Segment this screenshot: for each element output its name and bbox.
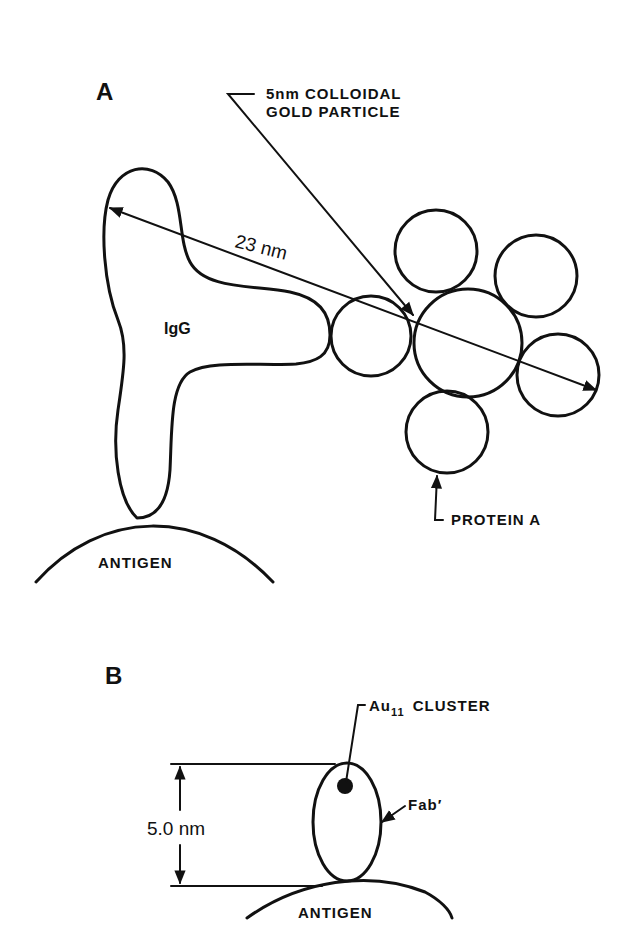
igg-antibody-shape bbox=[104, 169, 330, 518]
au11-label-main: Au bbox=[369, 697, 391, 714]
antigen-label-a: ANTIGEN bbox=[98, 554, 173, 571]
protein-a-top bbox=[395, 210, 477, 292]
fab-leader bbox=[382, 806, 405, 822]
au11-label-rest: CLUSTER bbox=[413, 697, 491, 714]
fab-label: Fab′ bbox=[408, 796, 442, 813]
gold-callout-leader bbox=[228, 94, 413, 315]
protein-a-callout: PROTEIN A bbox=[435, 476, 541, 528]
au11-cluster bbox=[337, 778, 353, 794]
panel-a-label: A bbox=[96, 78, 113, 105]
dimension-23nm-arrow bbox=[110, 208, 596, 390]
antigen-label-b: ANTIGEN bbox=[298, 904, 373, 921]
panel-b-label: B bbox=[105, 662, 122, 689]
protein-a-bottom bbox=[406, 391, 488, 473]
protein-a-top-right bbox=[495, 235, 577, 317]
igg-label: IgG bbox=[164, 320, 191, 337]
protein-a-leader bbox=[435, 476, 443, 520]
au11-label-sub: 11 bbox=[391, 706, 405, 718]
protein-a-label: PROTEIN A bbox=[451, 511, 541, 528]
dimension-5nm-label: 5.0 nm bbox=[147, 818, 205, 839]
protein-a-left bbox=[331, 296, 411, 376]
dimension-23nm-label: 23 nm bbox=[233, 231, 289, 264]
immunogold-diagram: A 5nm COLLOIDAL GOLD PARTICLE IgG ANTIGE… bbox=[0, 0, 632, 946]
au11-label: Au11CLUSTER bbox=[369, 697, 490, 718]
gold-callout-line1: 5nm COLLOIDAL bbox=[266, 85, 402, 102]
gold-particle-callout: 5nm COLLOIDAL GOLD PARTICLE bbox=[228, 85, 413, 315]
gold-callout-line2: GOLD PARTICLE bbox=[266, 103, 400, 120]
